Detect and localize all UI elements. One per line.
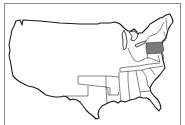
pennsylvania bbox=[146, 42, 164, 54]
us-outline bbox=[9, 14, 173, 119]
us-map bbox=[0, 0, 185, 125]
